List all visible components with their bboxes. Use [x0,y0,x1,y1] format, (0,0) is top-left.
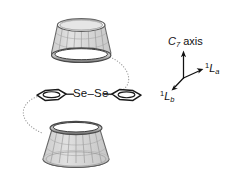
1lb-axis-label: 1Lb [160,90,174,104]
axis-arrows [172,51,204,91]
1la-subscript: a [215,67,219,76]
cone-top-rim-lower [51,48,110,63]
aryl-ring-right [112,90,141,101]
aryl-ring-left [37,90,66,101]
c7-axis-symbol: C [168,35,176,47]
se-se-bridge-label: Se–Se [73,88,109,100]
cone-bottom-rim-upper [50,121,102,134]
cone-top-rim-upper [57,19,105,32]
1la-axis-label: 1La [205,62,219,76]
figure-canvas: Se–Se C7 axis 1La 1Lb [0,0,232,174]
cyclodextrin-cone-bottom [43,121,109,168]
axis-arrow-1la-shaft [184,71,201,79]
c7-axis-word: axis [180,35,203,47]
1lb-subscript: b [170,95,174,104]
figure-graphics [0,0,232,174]
axis-arrow-1lb-shaft [174,78,184,88]
cyclodextrin-cone-top [51,19,110,63]
c7-axis-label: C7 axis [168,36,203,48]
